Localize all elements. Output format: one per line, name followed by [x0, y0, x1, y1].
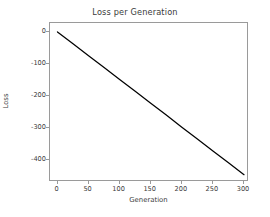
x-tick-mark [119, 181, 120, 184]
x-tick-label: 50 [83, 185, 91, 193]
x-tick-mark [150, 181, 151, 184]
x-tick-mark [181, 181, 182, 184]
x-tick-mark [57, 181, 58, 184]
y-tick-label: -400 [31, 155, 46, 163]
plot-area [49, 22, 248, 181]
y-tick-mark [46, 31, 49, 32]
plot-svg [50, 23, 249, 182]
chart-title: Loss per Generation [0, 7, 270, 17]
y-tick-mark [46, 63, 49, 64]
loss-line-series [57, 32, 244, 175]
x-tick-label: 0 [54, 185, 58, 193]
x-tick-mark [88, 181, 89, 184]
y-tick-label: -100 [31, 59, 46, 67]
y-axis-label: Loss [2, 93, 10, 108]
x-tick-mark [243, 181, 244, 184]
x-tick-label: 100 [112, 185, 125, 193]
x-tick-label: 200 [175, 185, 188, 193]
x-tick-label: 300 [237, 185, 250, 193]
x-tick-mark [212, 181, 213, 184]
x-axis-label: Generation [49, 196, 248, 204]
chart-figure: Loss per Generation 050100150200250300 0… [0, 0, 270, 217]
y-tick-mark [46, 95, 49, 96]
y-tick-mark [46, 127, 49, 128]
y-tick-mark [46, 159, 49, 160]
x-tick-label: 150 [143, 185, 156, 193]
y-tick-label: -300 [31, 123, 46, 131]
y-tick-label: -200 [31, 91, 46, 99]
y-tick-label: 0 [42, 27, 46, 35]
x-tick-label: 250 [206, 185, 219, 193]
